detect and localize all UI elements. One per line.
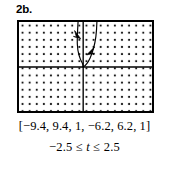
problem-label: 2b. <box>16 2 32 16</box>
parameter-range-upper: ≤ 2.5 <box>90 140 120 154</box>
figure-container: 2b. [−9.4, 9.4, 1, −6.2, 6.2, 1] <box>0 0 169 170</box>
graph-plot <box>19 22 152 111</box>
screen-viewport <box>19 22 152 111</box>
parameter-range-caption: −2.5 ≤ t ≤ 2.5 <box>0 139 169 155</box>
graphing-calculator-screen <box>17 20 154 113</box>
window-settings-caption: [−9.4, 9.4, 1, −6.2, 6.2, 1] <box>0 118 169 134</box>
parameter-range-lower: −2.5 ≤ <box>49 140 86 154</box>
